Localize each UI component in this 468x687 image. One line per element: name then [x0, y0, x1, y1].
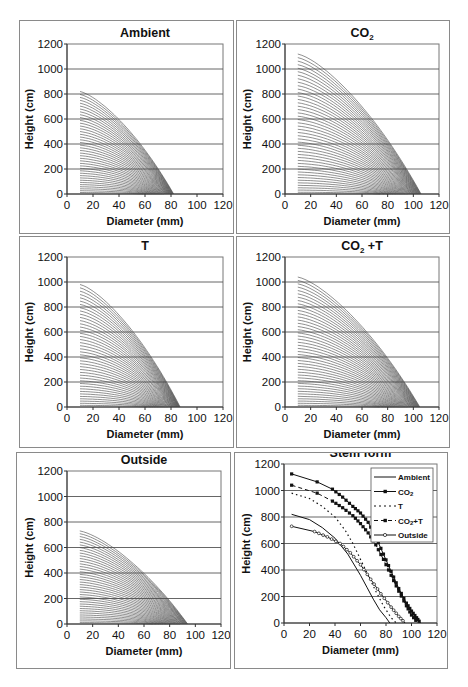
y-tick-label: 400 — [44, 138, 63, 150]
y-tick-label: 600 — [262, 326, 281, 338]
y-axis-label: Height (cm) — [241, 301, 253, 362]
y-axis-label: Height (cm) — [23, 517, 35, 578]
y-tick-label: 400 — [44, 567, 63, 579]
y-tick-label: 600 — [44, 542, 63, 554]
y-axis-label: Height (cm) — [241, 88, 253, 149]
x-tick-label: 0 — [64, 629, 70, 641]
x-tick-label: 40 — [113, 199, 126, 211]
x-axis-label: Diameter (mm) — [106, 215, 183, 227]
y-tick-label: 200 — [44, 163, 63, 175]
x-tick-label: 20 — [304, 199, 317, 211]
y-tick-label: 1000 — [254, 485, 280, 497]
legend-entry: Outside — [398, 531, 428, 540]
x-tick-label: 80 — [381, 199, 394, 211]
x-tick-label: 100 — [187, 412, 206, 424]
chart-ambient: Ambient020040060080010001200020406080100… — [20, 21, 233, 233]
y-tick-label: 200 — [44, 376, 63, 388]
x-tick-label: 120 — [213, 199, 232, 211]
x-tick-label: 40 — [330, 412, 343, 424]
y-tick-label: 600 — [44, 326, 63, 338]
chart-t: T020040060080010001200020406080100120Dia… — [20, 237, 233, 447]
y-tick-label: 200 — [262, 376, 281, 388]
y-tick-label: 600 — [262, 113, 281, 125]
y-tick-label: 0 — [275, 401, 281, 413]
x-tick-label: 40 — [329, 628, 342, 640]
y-tick-label: 1200 — [37, 38, 63, 50]
x-tick-label: 20 — [87, 412, 100, 424]
y-tick-label: 600 — [261, 538, 280, 550]
chart-title: T — [141, 239, 149, 253]
y-tick-label: 800 — [44, 88, 63, 100]
x-tick-label: 0 — [282, 199, 288, 211]
y-tick-label: 800 — [44, 301, 63, 313]
y-axis-label: Height (cm) — [23, 88, 35, 149]
y-tick-label: 800 — [262, 301, 281, 313]
chart-panel-co2-t: CO2 +T0200400600800100012000204060801001… — [236, 236, 450, 448]
x-axis-label: Diameter (mm) — [322, 644, 399, 656]
chart-panel-ambient: Ambient020040060080010001200020406080100… — [19, 20, 234, 234]
y-tick-label: 0 — [57, 401, 63, 413]
y-tick-label: 1000 — [37, 276, 63, 288]
x-tick-label: 60 — [356, 412, 369, 424]
x-tick-label: 60 — [139, 199, 152, 211]
y-tick-label: 1200 — [37, 465, 63, 477]
x-tick-label: 40 — [113, 412, 126, 424]
x-tick-label: 60 — [356, 199, 369, 211]
x-tick-label: 20 — [86, 629, 99, 641]
x-tick-label: 100 — [402, 628, 421, 640]
x-axis-label: Diameter (mm) — [106, 428, 183, 440]
chart-title: Outside — [121, 453, 168, 467]
chart-panel-outside: Outside020040060080010001200020406080100… — [16, 452, 231, 669]
y-axis-label: Height (cm) — [240, 513, 252, 574]
x-tick-label: 80 — [381, 412, 394, 424]
y-tick-label: 1000 — [255, 63, 281, 75]
x-tick-label: 80 — [165, 412, 178, 424]
chart-title: Ambient — [120, 26, 171, 40]
x-tick-label: 100 — [186, 629, 205, 641]
x-tick-label: 80 — [380, 628, 393, 640]
x-axis-label: Diameter (mm) — [323, 215, 400, 227]
y-tick-label: 800 — [44, 516, 63, 528]
x-tick-label: 40 — [112, 629, 125, 641]
x-tick-label: 0 — [64, 412, 70, 424]
chart-panel-stem-form: Stem form0200400600800100012000204060801… — [234, 452, 448, 669]
chart-panel-t: T020040060080010001200020406080100120Dia… — [19, 236, 234, 448]
y-tick-label: 800 — [261, 511, 280, 523]
x-tick-label: 20 — [304, 412, 317, 424]
chart-title: CO2 — [350, 26, 374, 42]
legend-entry: T — [398, 502, 403, 511]
chart-co2-t: CO2 +T0200400600800100012000204060801001… — [237, 237, 449, 447]
y-tick-label: 600 — [44, 113, 63, 125]
x-tick-label: 100 — [404, 199, 423, 211]
chart-outside: Outside020040060080010001200020406080100… — [17, 453, 230, 668]
x-tick-label: 20 — [87, 199, 100, 211]
x-tick-label: 100 — [404, 412, 423, 424]
x-axis-label: Diameter (mm) — [323, 428, 400, 440]
y-tick-label: 200 — [262, 163, 281, 175]
x-tick-label: 60 — [139, 412, 152, 424]
x-tick-label: 120 — [429, 199, 448, 211]
x-tick-label: 60 — [138, 629, 151, 641]
y-tick-label: 1000 — [37, 63, 63, 75]
y-axis-label: Height (cm) — [23, 301, 35, 362]
y-tick-label: 200 — [44, 593, 63, 605]
x-tick-label: 120 — [213, 412, 232, 424]
chart-title: Stem form — [330, 453, 392, 460]
x-tick-label: 20 — [303, 628, 316, 640]
y-tick-label: 400 — [44, 351, 63, 363]
y-tick-label: 1200 — [255, 251, 281, 263]
y-tick-label: 1000 — [37, 491, 63, 503]
x-tick-label: 120 — [211, 629, 230, 641]
x-tick-label: 80 — [163, 629, 176, 641]
x-tick-label: 40 — [330, 199, 343, 211]
y-tick-label: 1000 — [255, 276, 281, 288]
x-tick-label: 0 — [281, 628, 287, 640]
y-tick-label: 800 — [262, 88, 281, 100]
legend-entry: Ambient — [398, 473, 430, 482]
x-tick-label: 60 — [354, 628, 367, 640]
y-tick-label: 400 — [262, 138, 281, 150]
y-tick-label: 1200 — [37, 251, 63, 263]
y-tick-label: 0 — [57, 188, 63, 200]
y-tick-label: 1200 — [254, 458, 280, 470]
y-tick-label: 200 — [261, 591, 280, 603]
